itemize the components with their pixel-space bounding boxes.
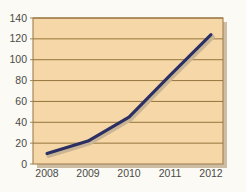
x-axis-tick-label: 2009 [76, 167, 100, 179]
x-axis-tick-label: 2012 [199, 167, 223, 179]
y-axis-tick-label: 80 [15, 74, 27, 86]
y-axis-tick-label: 60 [15, 95, 27, 107]
line-chart-figure: 020406080100120140 20082009201020112012 [0, 0, 246, 192]
y-axis-tick-label: 140 [9, 12, 27, 24]
x-axis-tick-label: 2011 [159, 167, 182, 179]
x-axis-tick-label: 2008 [35, 167, 59, 179]
y-axis-tick-label: 100 [9, 53, 27, 65]
y-axis-tick-label: 0 [21, 158, 27, 170]
x-axis-tick-labels: 20082009201020112012 [35, 167, 223, 179]
y-axis-tick-label: 20 [15, 137, 27, 149]
x-axis-tick-label: 2010 [117, 167, 141, 179]
y-axis-tick-label: 40 [15, 116, 27, 128]
chart-canvas: 020406080100120140 20082009201020112012 [0, 0, 246, 192]
plot-area-background [33, 18, 223, 164]
y-axis-tick-labels: 020406080100120140 [9, 12, 27, 170]
y-axis-tick-label: 120 [9, 32, 27, 44]
